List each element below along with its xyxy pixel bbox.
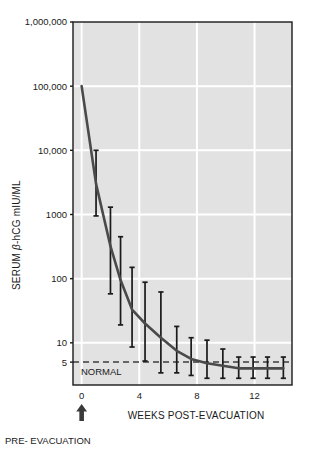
x-axis-tick-labels: 04812 [79,390,260,401]
x-tick-label: 4 [137,390,142,401]
y-tick-label: 100,000 [33,81,67,92]
pre-evacuation-arrow-icon [76,404,87,421]
plot-area-background [73,22,292,385]
y-axis-title-prefix: SERUM [11,250,22,290]
x-tick-label: 0 [79,390,84,401]
x-axis-title: WEEKS POST-EVACUATION [128,410,265,421]
y-axis-title: SERUM β-hCG mIU/ML [11,180,22,290]
pre-evacuation-label: PRE- EVACUATION [5,435,91,446]
x-tick-label: 12 [249,390,260,401]
y-tick-label: 1000 [46,209,67,220]
y-axis-tick-labels: 1,000,000100,00010,0001000100105 [25,16,67,367]
y-tick-label: 1,000,000 [25,16,67,27]
up-arrow-icon [76,404,87,421]
y-tick-label: 100 [51,273,67,284]
y-tick-label: 10 [56,337,67,348]
serum-hcg-regression-chart: 1,000,000100,00010,0001000100105 04812 N… [0,0,313,452]
x-tick-label: 8 [194,390,199,401]
chart-figure: 1,000,000100,00010,0001000100105 04812 N… [0,0,313,452]
y-tick-label: 10,000 [38,145,67,156]
normal-line-label: NORMAL [81,366,122,377]
y-tick-label: 5 [62,357,67,368]
y-axis-title-suffix: -hCG mIU/ML [11,180,22,244]
